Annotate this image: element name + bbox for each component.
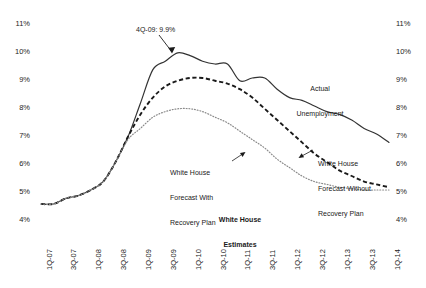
x-tick-1Q-12: 1Q-12 (293, 249, 302, 270)
without-recovery-line2: Forecast Without (318, 185, 371, 193)
y-tick-left-5: 5% (8, 187, 30, 196)
actual-unemployment-line1: Actual (283, 85, 357, 93)
y-tick-left-6: 6% (8, 159, 30, 168)
peak-callout-text: 4Q-09: 9.9% (136, 26, 175, 33)
x-tick-1Q-07: 1Q-07 (45, 249, 54, 270)
y-tick-right-11: 11% (396, 19, 418, 28)
actual-unemployment-line2: Unemployment (283, 110, 357, 118)
y-tick-left-10: 10% (8, 47, 30, 56)
x-tick-3Q-08: 3Q-08 (119, 249, 128, 270)
y-tick-right-6: 6% (396, 159, 418, 168)
x-tick-1Q-14: 1Q-14 (393, 249, 402, 270)
with-recovery-leader-arrowhead (240, 152, 246, 157)
x-tick-1Q-08: 1Q-08 (94, 249, 103, 270)
x-tick-1Q-13: 1Q-13 (343, 249, 352, 270)
white-house-estimates-label: White House Estimates (203, 199, 277, 266)
x-tick-3Q-13: 3Q-13 (368, 249, 377, 270)
peak-callout-arrowhead (168, 47, 175, 54)
y-tick-right-8: 8% (396, 103, 418, 112)
y-tick-left-4: 4% (8, 215, 30, 224)
y-tick-right-9: 9% (396, 75, 418, 84)
x-tick-1Q-10: 1Q-10 (194, 249, 203, 270)
actual-unemployment-label: Actual Unemployment (283, 68, 357, 135)
estimates-line2: Estimates (203, 241, 277, 249)
y-tick-right-4: 4% (396, 215, 418, 224)
without-recovery-line1: White House (318, 160, 371, 168)
x-tick-3Q-12: 3Q-12 (318, 249, 327, 270)
estimates-line1: White House (203, 216, 277, 224)
x-tick-3Q-07: 3Q-07 (69, 249, 78, 270)
y-tick-right-7: 7% (396, 131, 418, 140)
y-tick-left-8: 8% (8, 103, 30, 112)
x-tick-3Q-09: 3Q-09 (169, 249, 178, 270)
without-recovery-line3: Recovery Plan (318, 210, 371, 218)
y-tick-left-11: 11% (8, 19, 30, 28)
peak-callout-label: 4Q-09: 9.9% (136, 26, 175, 34)
y-tick-left-9: 9% (8, 75, 30, 84)
y-tick-right-5: 5% (396, 187, 418, 196)
x-tick-1Q-09: 1Q-09 (144, 249, 153, 270)
unemployment-chart: 11% 10% 9% 8% 7% 6% 5% 4% 11% 10% 9% 8% … (0, 0, 426, 288)
forecast-without-recovery-label: White House Forecast Without Recovery Pl… (318, 143, 371, 235)
with-recovery-line1: White House (170, 169, 216, 177)
y-tick-right-10: 10% (396, 47, 418, 56)
y-tick-left-7: 7% (8, 131, 30, 140)
